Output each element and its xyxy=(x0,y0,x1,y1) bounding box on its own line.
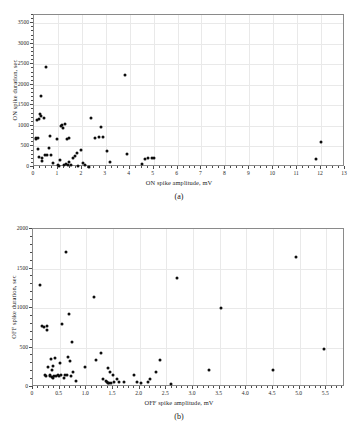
y-axis-tick xyxy=(30,43,33,44)
y-axis-minor-tick xyxy=(31,137,33,138)
data-point xyxy=(44,374,47,377)
y-axis-minor-tick xyxy=(30,244,32,245)
gridline-vertical xyxy=(106,15,107,165)
gridline-vertical xyxy=(300,229,301,385)
data-point xyxy=(62,126,65,129)
gridline-horizontal xyxy=(34,146,343,147)
x-axis-minor-tick xyxy=(149,386,150,388)
data-point xyxy=(272,368,275,371)
panel-caption-a: (a) xyxy=(0,192,358,201)
y-axis-minor-tick xyxy=(31,158,33,159)
x-axis-minor-tick xyxy=(117,166,118,168)
x-axis-minor-tick xyxy=(235,386,236,388)
gridline-horizontal xyxy=(33,348,343,349)
data-point xyxy=(58,164,61,167)
x-axis-minor-tick xyxy=(99,166,100,168)
x-axis-tick-label: 5 xyxy=(151,170,154,176)
x-axis-tick-label: 12 xyxy=(317,170,323,176)
x-axis-minor-tick xyxy=(117,386,118,388)
x-axis-tick xyxy=(59,386,60,389)
gridline-vertical xyxy=(273,15,274,165)
gridline-vertical xyxy=(130,15,131,165)
y-axis-minor-tick xyxy=(31,88,33,89)
x-axis-minor-tick xyxy=(290,166,291,168)
y-axis-minor-tick xyxy=(31,141,33,142)
gridline-horizontal xyxy=(34,85,343,86)
data-point xyxy=(169,382,172,385)
x-axis-tick xyxy=(33,166,34,169)
y-axis-minor-tick xyxy=(31,18,33,19)
figure-container: ON spike amplitude, mV ON spike duration… xyxy=(0,0,358,437)
x-axis-minor-tick xyxy=(87,166,88,168)
x-axis-tick-label: 13 xyxy=(341,170,347,176)
x-axis-tick-label: 1.5 xyxy=(109,390,116,396)
gridline-vertical xyxy=(246,229,247,385)
data-point xyxy=(124,74,127,77)
panel-a: ON spike amplitude, mV ON spike duration… xyxy=(0,2,358,214)
x-axis-minor-tick xyxy=(165,166,166,168)
y-axis-tick-label: 0 xyxy=(26,163,29,169)
y-axis-minor-tick xyxy=(30,260,32,261)
y-axis-tick-label: 3000 xyxy=(18,40,29,46)
y-axis-title-a: ON spike duration, sec xyxy=(11,60,18,121)
y-axis-tick xyxy=(30,166,33,167)
data-point xyxy=(52,365,55,368)
gridline-horizontal xyxy=(34,64,343,65)
x-axis-minor-tick xyxy=(128,386,129,388)
x-axis-tick-label: 2 xyxy=(79,170,82,176)
gridline-vertical xyxy=(297,15,298,165)
gridline-vertical xyxy=(249,15,250,165)
gridline-horizontal xyxy=(34,126,343,127)
x-axis-tick-label: 3.5 xyxy=(215,390,222,396)
x-axis-minor-tick xyxy=(51,166,52,168)
x-axis-tick xyxy=(248,166,249,169)
data-point xyxy=(61,322,64,325)
x-axis-tick xyxy=(245,386,246,389)
x-axis-tick xyxy=(165,386,166,389)
y-axis-tick-label: 1500 xyxy=(18,101,29,107)
x-axis-minor-tick xyxy=(331,386,332,388)
x-axis-minor-tick xyxy=(135,166,136,168)
y-axis-minor-tick xyxy=(31,80,33,81)
y-axis-tick xyxy=(30,145,33,146)
x-axis-title-a: ON spike amplitude, mV xyxy=(0,179,358,186)
gridline-horizontal xyxy=(33,269,343,270)
x-axis-tick xyxy=(32,386,33,389)
x-axis-minor-tick xyxy=(326,166,327,168)
x-axis-minor-tick xyxy=(278,166,279,168)
y-axis-tick-label: 2000 xyxy=(17,225,28,231)
y-axis-tick-label: 3500 xyxy=(18,19,29,25)
x-axis-minor-tick xyxy=(284,166,285,168)
data-point xyxy=(46,154,49,157)
x-axis-tick xyxy=(320,166,321,169)
data-point xyxy=(154,370,157,373)
gridline-horizontal xyxy=(34,44,343,45)
data-point xyxy=(93,295,96,298)
x-axis-minor-tick xyxy=(293,386,294,388)
y-axis-minor-tick xyxy=(31,51,33,52)
data-point xyxy=(38,284,41,287)
x-axis-minor-tick xyxy=(45,166,46,168)
data-point xyxy=(47,365,50,368)
gridline-vertical xyxy=(86,229,87,385)
gridline-vertical xyxy=(82,15,83,165)
data-point xyxy=(94,358,97,361)
y-axis-tick xyxy=(29,347,32,348)
x-axis-minor-tick xyxy=(229,386,230,388)
x-axis-minor-tick xyxy=(53,386,54,388)
x-axis-minor-tick xyxy=(123,166,124,168)
data-point xyxy=(133,374,136,377)
data-point xyxy=(139,381,142,384)
data-point xyxy=(64,122,67,125)
data-point xyxy=(40,95,43,98)
x-axis-tick-label: 2.0 xyxy=(135,390,142,396)
gridline-vertical xyxy=(273,229,274,385)
x-axis-minor-tick xyxy=(48,386,49,388)
y-axis-tick xyxy=(30,104,33,105)
x-axis-tick-label: 0 xyxy=(31,390,34,396)
data-point xyxy=(94,136,97,139)
data-point xyxy=(122,380,125,383)
x-axis-minor-tick xyxy=(63,166,64,168)
x-axis-tick-label: 8 xyxy=(223,170,226,176)
y-axis-tick xyxy=(29,228,32,229)
